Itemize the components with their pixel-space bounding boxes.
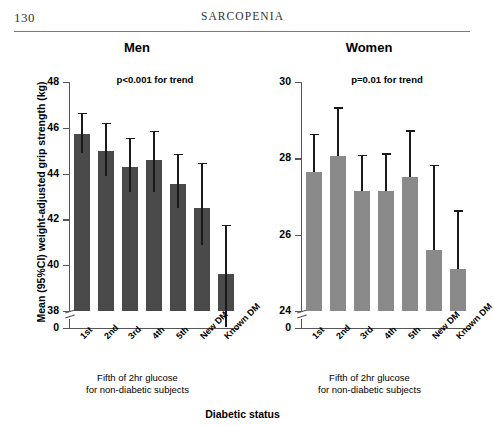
y-tick-label: 38 — [47, 304, 59, 316]
x-tick-label-4th: 4th — [150, 324, 167, 341]
y-tick-label: 44 — [47, 167, 59, 179]
y-tick-label: 0 — [285, 321, 291, 333]
y-tick-46: 46 — [63, 128, 70, 129]
y-tick-label: 30 — [279, 75, 291, 87]
y-tick-mark — [63, 219, 70, 220]
y-tick-mark — [63, 82, 70, 83]
error-cap-known-dm — [222, 225, 231, 226]
y-tick-label: 42 — [47, 212, 59, 224]
y-tick-label: 28 — [279, 151, 291, 163]
bar-known-dm — [450, 269, 466, 311]
y-tick-mark — [295, 82, 302, 83]
x-tick-label-2nd: 2nd — [102, 323, 120, 341]
y-tick-mark — [63, 128, 70, 129]
error-bar-4th — [385, 155, 386, 191]
error-cap-new-dm — [430, 165, 439, 166]
y-tick-24: 24 — [295, 311, 302, 312]
y-tick-label: 24 — [279, 304, 291, 316]
error-cap-4th — [382, 153, 391, 154]
bar-1st — [306, 172, 322, 311]
error-cap-2nd — [102, 123, 111, 124]
y-tick-30: 30 — [295, 82, 302, 83]
error-bar-1st — [81, 114, 82, 153]
error-bar-3rd — [361, 156, 362, 190]
x-tick-label-3rd: 3rd — [358, 324, 375, 341]
y-tick-mark — [295, 328, 302, 329]
error-bar-known-dm — [457, 212, 458, 269]
y-tick-0: 0 — [63, 328, 70, 329]
y-tick-mark — [63, 265, 70, 266]
error-cap-3rd — [358, 155, 367, 156]
x-tick-label-2nd: 2nd — [334, 323, 352, 341]
y-tick-mark — [63, 311, 70, 312]
panel-men: Men p<0.001 for trend 4846444240380 1st2… — [30, 36, 245, 426]
bar-5th — [402, 177, 418, 311]
error-cap-4th — [150, 131, 159, 132]
figure-grip-strength: Mean (95%CI) weight-adjusted grip streng… — [0, 36, 485, 426]
error-bar-new-dm — [433, 166, 434, 250]
y-tick-mark — [295, 311, 302, 312]
error-bar-3rd — [129, 139, 130, 192]
x-caption-men-line1: Fifth of 2hr glucose — [50, 372, 225, 384]
y-tick-mark — [63, 328, 70, 329]
error-cap-2nd — [334, 107, 343, 108]
header-divider — [14, 31, 470, 32]
x-caption-women-line2: for non-diabetic subjects — [282, 384, 457, 396]
y-tick-label: 0 — [53, 321, 59, 333]
bar-1st — [74, 134, 90, 311]
x-axis-title: Diabetic status — [0, 408, 485, 420]
panel-title-men: Men — [42, 40, 232, 55]
plot-area-men — [70, 82, 238, 311]
y-tick-label: 40 — [47, 258, 59, 270]
y-tick-42: 42 — [63, 219, 70, 220]
bar-2nd — [330, 156, 346, 311]
y-tick-mark — [295, 235, 302, 236]
bar-3rd — [354, 191, 370, 311]
y-tick-44: 44 — [63, 174, 70, 175]
x-caption-women: Fifth of 2hr glucose for non-diabetic su… — [282, 372, 457, 396]
y-tick-26: 26 — [295, 235, 302, 236]
error-cap-new-dm — [198, 163, 207, 164]
x-tick-label-5th: 5th — [174, 324, 191, 341]
y-tick-label: 46 — [47, 121, 59, 133]
error-bar-5th — [409, 132, 410, 178]
error-cap-5th — [174, 154, 183, 155]
y-tick-mark — [63, 174, 70, 175]
x-caption-men-line2: for non-diabetic subjects — [50, 384, 225, 396]
error-cap-3rd — [126, 138, 135, 139]
error-bar-1st — [313, 135, 314, 171]
x-tick-label-4th: 4th — [382, 324, 399, 341]
y-tick-38: 38 — [63, 311, 70, 312]
y-tick-label: 48 — [47, 75, 59, 87]
error-cap-1st — [78, 113, 87, 114]
panel-women: Women p=0.01 for trend 302826240 1st2nd3… — [262, 36, 477, 426]
y-tick-40: 40 — [63, 265, 70, 266]
error-bar-4th — [153, 132, 154, 192]
page-header: 130 SARCOPENIA — [0, 0, 485, 36]
y-tick-label: 26 — [279, 228, 291, 240]
y-tick-0: 0 — [295, 328, 302, 329]
error-bar-2nd — [337, 109, 338, 157]
y-tick-28: 28 — [295, 158, 302, 159]
x-caption-women-line1: Fifth of 2hr glucose — [282, 372, 457, 384]
bar-4th — [378, 191, 394, 311]
y-tick-mark — [295, 158, 302, 159]
error-bar-2nd — [105, 124, 106, 176]
error-cap-known-dm — [454, 210, 463, 211]
running-head: SARCOPENIA — [0, 10, 485, 22]
bar-new-dm — [426, 250, 442, 311]
y-tick-48: 48 — [63, 82, 70, 83]
x-tick-label-5th: 5th — [406, 324, 423, 341]
plot-area-women — [302, 82, 470, 311]
x-caption-men: Fifth of 2hr glucose for non-diabetic su… — [50, 372, 225, 396]
error-cap-5th — [406, 130, 415, 131]
x-tick-label-3rd: 3rd — [126, 324, 143, 341]
error-bar-5th — [177, 155, 178, 208]
panel-title-women: Women — [274, 40, 464, 55]
error-cap-1st — [310, 134, 319, 135]
error-bar-new-dm — [201, 164, 202, 244]
